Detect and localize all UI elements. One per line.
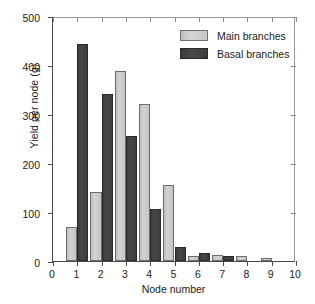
legend-item-basal-branches: Basal branches [180, 46, 289, 61]
x-tick-8 [247, 261, 248, 266]
x-tick-6 [199, 261, 200, 266]
x-tick-label-5: 5 [171, 268, 177, 280]
y-tick-label-300: 300 [22, 110, 40, 122]
x-tick-label-3: 3 [122, 268, 128, 280]
x-tick-label-10: 10 [289, 268, 301, 280]
bar-basal-node-4 [150, 209, 161, 261]
x-tick-9 [272, 261, 273, 266]
x-tick-top-0 [53, 17, 54, 22]
bar-main-node-6 [188, 256, 199, 261]
x-tick-label-2: 2 [98, 268, 104, 280]
y-tick-label-400: 400 [22, 61, 40, 73]
x-tick-label-4: 4 [146, 268, 152, 280]
x-tick-label-7: 7 [219, 268, 225, 280]
x-tick-top-7 [223, 17, 224, 22]
bar-main-node-2 [90, 192, 101, 261]
y-tick-label-500: 500 [22, 12, 40, 24]
x-tick-4 [150, 261, 151, 266]
legend-label-basal-branches: Basal branches [217, 48, 289, 60]
y-tick-400: 400 [48, 66, 53, 67]
x-tick-3 [126, 261, 127, 266]
x-tick-label-8: 8 [243, 268, 249, 280]
y-tick-right-200 [291, 164, 296, 165]
chart-legend: Main branches Basal branches [180, 28, 289, 64]
x-tick-label-9: 9 [268, 268, 274, 280]
x-tick-label-0: 0 [49, 268, 55, 280]
bar-basal-node-5 [175, 247, 186, 261]
x-tick-top-10 [296, 17, 297, 22]
y-axis-label: Yield per node (g) [28, 6, 40, 206]
x-tick-5 [175, 261, 176, 266]
y-tick-300: 300 [48, 115, 53, 116]
legend-swatch-basal-branches [180, 48, 208, 59]
y-tick-200: 200 [48, 164, 53, 165]
x-tick-label-6: 6 [195, 268, 201, 280]
x-tick-2 [102, 261, 103, 266]
x-tick-top-9 [272, 17, 273, 22]
y-tick-label-100: 100 [22, 208, 40, 220]
bar-main-node-4 [139, 104, 150, 261]
x-tick-top-2 [102, 17, 103, 22]
x-tick-top-6 [199, 17, 200, 22]
x-tick-top-1 [77, 17, 78, 22]
y-tick-label-200: 200 [22, 159, 40, 171]
y-tick-label-0: 0 [34, 257, 40, 269]
x-tick-top-4 [150, 17, 151, 22]
bar-basal-node-2 [102, 94, 113, 261]
y-tick-right-300 [291, 115, 296, 116]
y-tick-right-400 [291, 66, 296, 67]
y-tick-right-100 [291, 213, 296, 214]
x-tick-10 [296, 261, 297, 266]
x-tick-label-1: 1 [73, 268, 79, 280]
bar-basal-node-7 [223, 256, 234, 261]
legend-swatch-main-branches [180, 30, 208, 41]
x-axis-label: Node number [52, 283, 295, 295]
bar-main-node-5 [163, 185, 174, 261]
y-tick-100: 100 [48, 213, 53, 214]
x-tick-top-3 [126, 17, 127, 22]
bar-basal-node-3 [126, 136, 137, 261]
figure-bar-chart: Yield per node (g) Node number 010020030… [0, 0, 315, 304]
x-tick-0 [53, 261, 54, 266]
bar-main-node-7 [212, 255, 223, 261]
bar-basal-node-6 [199, 253, 210, 261]
bar-main-node-8 [236, 256, 247, 261]
x-tick-top-5 [175, 17, 176, 22]
legend-label-main-branches: Main branches [217, 30, 286, 42]
x-tick-1 [77, 261, 78, 266]
x-tick-top-8 [247, 17, 248, 22]
bar-main-node-3 [115, 71, 126, 261]
x-tick-7 [223, 261, 224, 266]
bar-main-node-9 [261, 258, 272, 261]
bar-basal-node-1 [77, 44, 88, 261]
bar-main-node-1 [66, 227, 77, 261]
legend-item-main-branches: Main branches [180, 28, 289, 43]
